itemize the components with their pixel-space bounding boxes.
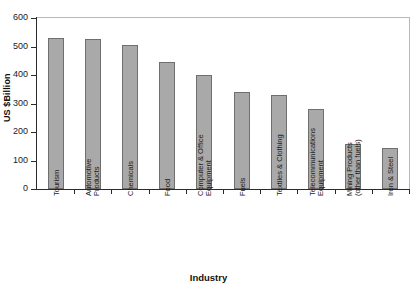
x-axis-category-label: Fuels: [239, 178, 247, 196]
x-axis-title: Industry: [0, 272, 417, 283]
x-axis-category-label: Computer & OfficeEquipment: [197, 134, 213, 196]
bar: [159, 62, 175, 189]
x-axis-tick: [409, 189, 410, 194]
x-axis-tick: [260, 189, 261, 194]
x-axis-tick: [149, 189, 150, 194]
x-axis-category-label: AutomotiveProducts: [85, 158, 101, 196]
y-axis-tick-label: 600: [0, 13, 28, 22]
y-axis-title: US $Billion: [2, 73, 12, 122]
y-axis-tick: [31, 189, 36, 190]
x-axis-category-label: Food: [164, 179, 172, 196]
y-axis-tick: [31, 132, 36, 133]
y-axis-tick-label: 100: [0, 156, 28, 165]
bar: [48, 38, 64, 189]
x-axis-tick: [372, 189, 373, 194]
x-axis-category-label: Iron & Steel: [387, 157, 395, 196]
x-axis-tick: [186, 189, 187, 194]
x-axis-tick: [335, 189, 336, 194]
bar-chart: 0100200300400500600 TourismAutomotivePro…: [0, 0, 417, 292]
x-axis-tick: [297, 189, 298, 194]
x-axis-category-label: TelecommunicationsEquipment: [309, 128, 325, 196]
y-axis-tick: [31, 18, 36, 19]
y-axis-tick-label: 0: [0, 184, 28, 193]
x-axis-category-label: Textiles & Clothing: [276, 134, 284, 196]
x-axis-category-label: Tourism: [53, 170, 61, 196]
x-axis-category-label: Mining Products(other than fuels): [346, 139, 362, 196]
x-axis-category-label: Chemicals: [127, 161, 135, 196]
x-axis-tick: [74, 189, 75, 194]
y-axis-tick: [31, 47, 36, 48]
y-axis-tick-label: 500: [0, 42, 28, 51]
y-axis-tick: [31, 75, 36, 76]
y-axis-tick-label: 200: [0, 127, 28, 136]
x-axis-tick: [111, 189, 112, 194]
y-axis-tick: [31, 161, 36, 162]
x-axis-tick: [223, 189, 224, 194]
bar: [234, 92, 250, 189]
y-axis-tick: [31, 104, 36, 105]
